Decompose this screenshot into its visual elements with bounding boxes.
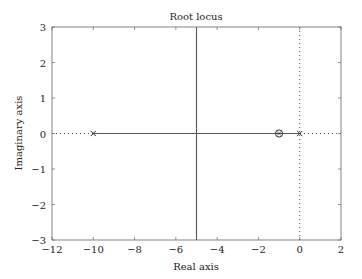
y-tick-label: 0	[40, 129, 46, 140]
y-tick-label: 1	[40, 93, 46, 104]
x-tick-label: −8	[127, 244, 142, 255]
x-tick-label: −10	[83, 244, 104, 255]
y-tick-label: −1	[31, 164, 46, 175]
x-axis-label: Real axis	[173, 261, 219, 272]
x-tick-label: −4	[210, 244, 225, 255]
x-axis-ticks: −12−10−8−6−4−202	[41, 27, 344, 255]
locus-lines	[93, 27, 299, 240]
x-tick-label: 2	[338, 244, 344, 255]
root-locus-chart: Root locus −12−10−8−6−4−202 −3−2−10123 R…	[0, 0, 362, 279]
x-tick-label: −2	[251, 244, 266, 255]
y-tick-label: 2	[40, 58, 46, 69]
x-tick-label: −6	[168, 244, 183, 255]
y-tick-label: −2	[31, 200, 46, 211]
y-axis-label: Imaginary axis	[13, 96, 24, 171]
y-tick-label: −3	[31, 235, 46, 246]
y-tick-label: 3	[40, 22, 46, 33]
chart-title: Root locus	[169, 11, 222, 22]
x-tick-label: 0	[297, 244, 303, 255]
